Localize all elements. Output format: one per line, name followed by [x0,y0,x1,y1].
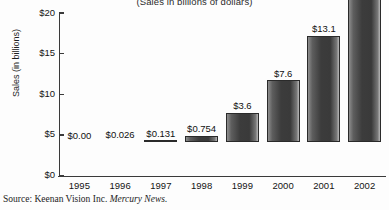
x-axis-tick-label: 1996 [100,180,140,191]
x-axis-tick-label: 1997 [141,180,181,191]
bar-group: $3.6 [226,0,259,142]
y-axis-tick-10 [59,94,64,95]
bar-group: $18.7 [348,0,381,142]
x-axis-tick-label: 2001 [304,180,344,191]
chart-figure: (Sales in billions of dollars) Sales (in… [0,0,389,210]
bar [144,140,177,142]
x-axis-tick-label: 1998 [182,180,222,191]
bar [267,80,300,142]
bar-group: $0.131 [144,0,177,142]
bar-group: $0.026 [104,0,137,142]
bar [185,136,218,142]
bar [348,0,381,142]
x-axis-tick-label: 2000 [263,180,303,191]
bar-group: $13.1 [307,0,340,142]
y-axis-tick-20 [59,12,64,13]
y-axis-tick-0 [59,175,64,176]
x-axis-tick-label: 1999 [222,180,262,191]
source-note: Source: Keenan Vision Inc. Mercury News. [3,194,167,204]
bar-group: $0.00 [63,0,96,142]
y-axis-tick-15 [59,53,64,54]
bar-group: $0.754 [185,0,218,142]
bar-value-label: $13.1 [312,23,336,34]
bar [226,113,259,142]
source-prefix: Source: Keenan Vision Inc. [3,194,107,204]
x-axis-tick-label: 2002 [345,180,385,191]
source-publication: Mercury News. [110,194,168,204]
x-axis-tick-label: 1995 [59,180,99,191]
bar-value-label: $3.6 [233,100,252,111]
bar-value-label: $0.754 [187,123,216,134]
y-axis-tick-5 [59,134,64,135]
bar-value-label: $0.026 [106,129,135,140]
bar-value-label: $0.131 [146,128,175,139]
bar-value-label: $0.00 [67,130,91,141]
bar-value-label: $7.6 [274,68,293,79]
bar-group: $7.6 [267,0,300,142]
bars-layer: $0.00$0.026$0.131$0.754$3.6$7.6$13.1$18.… [0,0,389,176]
bar [307,36,340,143]
